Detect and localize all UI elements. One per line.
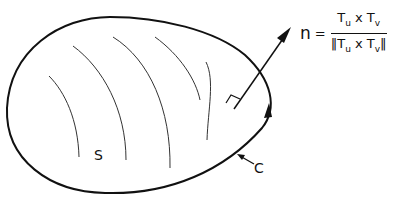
pointer-arrowhead-icon	[237, 154, 245, 160]
fraction-bar	[331, 33, 387, 35]
surface-label: S	[94, 147, 103, 163]
surface-line	[155, 37, 200, 100]
norm-close: ‖	[380, 36, 387, 51]
normal-vector	[234, 33, 287, 109]
normal-arrowhead-icon	[277, 27, 291, 43]
numerator-t: T	[337, 10, 345, 25]
curve-label: C	[254, 160, 264, 176]
fraction: Tu x Tv ‖Tu x Tv‖	[331, 10, 387, 57]
denominator: ‖Tu x Tv‖	[331, 36, 387, 57]
cross-operator: x	[351, 36, 367, 51]
numerator-t2: T	[367, 10, 375, 25]
surface-line	[113, 37, 170, 168]
right-angle-icon	[226, 95, 240, 103]
normal-symbol: n	[300, 23, 311, 43]
numerator-sub-v: v	[375, 18, 380, 28]
denominator-t: T	[337, 36, 345, 51]
surface-line	[206, 62, 211, 140]
boundary-curve-c	[7, 17, 271, 193]
denominator-t2: T	[367, 36, 375, 51]
numerator: Tu x Tv	[337, 10, 380, 31]
cross-operator: x	[351, 10, 367, 25]
normal-formula: n = Tu x Tv ‖Tu x Tv‖	[300, 10, 387, 57]
surface-line	[73, 46, 126, 160]
surface-line	[49, 76, 79, 157]
equals-sign: =	[315, 26, 326, 41]
